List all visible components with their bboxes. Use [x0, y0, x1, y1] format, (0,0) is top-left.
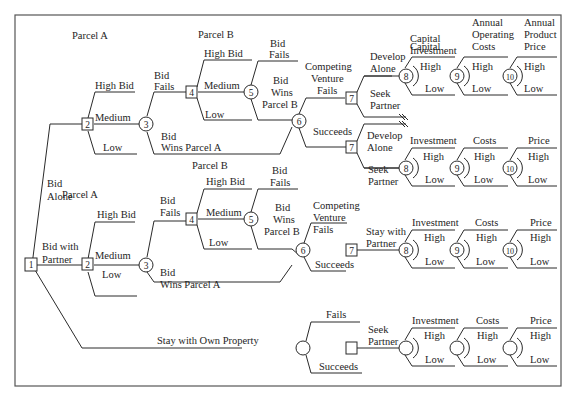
node-number: 5	[249, 88, 254, 98]
label-annual-price-1: Annual	[524, 17, 555, 28]
label-high-bid-b2: High Bid	[206, 176, 246, 187]
node-number: 6	[297, 117, 302, 127]
label-high: High	[530, 330, 552, 341]
node-number: 8	[404, 164, 409, 174]
label-high: High	[424, 232, 446, 243]
label-low: Low	[425, 256, 445, 267]
label-seek-partner-1: Seek	[370, 88, 391, 99]
label-high: High	[477, 330, 499, 341]
node-number: 2	[85, 120, 90, 130]
node-number: 4	[189, 215, 194, 225]
node-number: 10	[506, 73, 514, 82]
label-seek-partner-own-2: Partner	[368, 336, 399, 347]
label-bid-fails-b-1: Bid	[270, 38, 286, 49]
label-high-bid-2: High Bid	[97, 209, 137, 220]
decision-tree-diagram: 1 Bid Alone Bid with Partner Stay with O…	[0, 0, 576, 396]
node-number: 8	[404, 72, 409, 82]
label-seek-partner-b1: Seek	[368, 164, 389, 175]
label-high: High	[528, 151, 550, 162]
label-bid-fails-b2-1: Bid	[272, 165, 288, 176]
label-bid-fails-b2-2: Fails	[270, 177, 290, 188]
node-number: 10	[506, 165, 514, 174]
label-costs: Costs	[476, 315, 499, 326]
label-bid-wins-b-1: Bid	[273, 75, 289, 86]
branch-bid-fails-2	[147, 221, 186, 257]
label-annual-price-3: Price	[524, 41, 546, 52]
label-investment: Investment	[412, 217, 459, 228]
node-number: 7	[349, 143, 354, 153]
node-number: 5	[249, 215, 254, 225]
label-low-b2: Low	[209, 237, 229, 248]
branch-competing-fails	[299, 98, 345, 114]
label-parcel-a-mid: Parcel A	[62, 189, 98, 200]
label-high: High	[474, 151, 496, 162]
label-low-b: Low	[205, 109, 225, 120]
label-bid-wins-b2-1: Bid	[275, 202, 291, 213]
label-low: Low	[477, 354, 497, 365]
node-number: 1	[29, 260, 34, 270]
label-bid-fails-1: Bid	[154, 70, 170, 81]
uncertainty-row-1: 8 Capital Investment High Low 9 Annual O…	[399, 17, 557, 95]
label-costs: Costs	[473, 135, 496, 146]
label-bid-wins-a-2: Wins Parcel A	[161, 142, 222, 153]
label-develop-alone-b1: Develop	[367, 130, 403, 141]
label-low-2: Low	[102, 269, 122, 280]
label-seek-partner-own-1: Seek	[368, 324, 389, 335]
label-competing-1: Competing	[305, 61, 352, 72]
label-annual-price-2: Product	[524, 29, 557, 40]
label-competing-2-2: Venture	[313, 212, 346, 223]
label-bid-wins-a-2-2: Wins Parcel A	[160, 279, 221, 290]
label-capital-line2: Investment	[410, 45, 457, 56]
label-bid-fails-2-2: Fails	[160, 207, 180, 218]
uncertainty-row-4: Investment High Low Costs High Low Price…	[399, 315, 557, 366]
label-bid-wins-a-1: Bid	[161, 131, 177, 142]
chance-node-investment	[399, 341, 413, 355]
label-low: Low	[530, 256, 550, 267]
node-number: 8	[404, 246, 409, 256]
label-high: High	[530, 232, 552, 243]
label-bid-wins-b2-2: Wins	[273, 214, 295, 225]
label-bid-wins-b-3: Parcel B	[262, 99, 298, 110]
label-high-bid: High Bid	[95, 80, 135, 91]
label-capital-line1: Capital	[410, 33, 440, 44]
label-bid-wins-b-2: Wins	[271, 87, 293, 98]
label-parcel-b-mid: Parcel B	[192, 160, 228, 171]
label-bid-with-partner-1: Bid with	[42, 241, 79, 252]
label-investment: Investment	[410, 135, 457, 146]
label-succeeds-own: Succeeds	[319, 361, 358, 372]
label-bid-fails-2: Fails	[154, 81, 174, 92]
label-price: Price	[528, 135, 550, 146]
chance-node-price	[503, 341, 517, 355]
label-develop-alone-1: Develop	[370, 51, 406, 62]
label-high: High	[472, 61, 494, 72]
label-competing-3: Fails	[317, 85, 337, 96]
label-low: Low	[524, 83, 544, 94]
label-price: Price	[530, 315, 552, 326]
chance-node-stay	[296, 341, 310, 355]
label-bid-wins-a-2-1: Bid	[160, 267, 176, 278]
label-costs: Costs	[475, 217, 498, 228]
label-fails-own: Fails	[326, 309, 346, 320]
label-competing-2-3: Fails	[313, 224, 333, 235]
label-stay-partner-1: Stay with	[366, 226, 407, 237]
chance-node-costs	[450, 341, 464, 355]
label-low: Low	[530, 354, 550, 365]
label-low: Low	[476, 256, 496, 267]
label-medium-2: Medium	[95, 250, 131, 261]
label-medium-b2: Medium	[206, 207, 242, 218]
decision-node-own	[346, 342, 357, 354]
node-number: 10	[506, 247, 514, 256]
label-high-bid-b: High Bid	[204, 48, 244, 59]
label-high: High	[524, 61, 546, 72]
label-seek-partner-2: Partner	[370, 100, 401, 111]
label-low: Low	[425, 174, 445, 185]
node-number: 6	[301, 246, 306, 256]
node-number: 3	[144, 120, 149, 130]
label-low: Low	[474, 174, 494, 185]
label-low: Low	[528, 174, 548, 185]
label-high: High	[420, 61, 442, 72]
label-bid-wins-b2-3: Parcel B	[264, 226, 300, 237]
label-low: Low	[472, 83, 492, 94]
label-investment: Investment	[412, 315, 459, 326]
label-low: Low	[425, 354, 445, 365]
